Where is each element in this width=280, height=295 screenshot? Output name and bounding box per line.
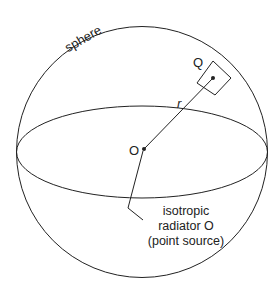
- radius-line: [144, 78, 213, 149]
- origin-dot: [142, 147, 146, 151]
- point-q-label: Q: [193, 55, 203, 70]
- point-q-dot: [211, 76, 215, 80]
- annotation-line-3: (point source): [126, 234, 246, 249]
- annotation-line-1: isotropic: [126, 204, 246, 219]
- annotation-line-2: radiator O: [126, 219, 246, 234]
- equator-ellipse: [17, 106, 268, 198]
- sphere-diagram: [0, 0, 280, 295]
- radius-label: r: [177, 96, 181, 111]
- origin-label: O: [129, 143, 139, 158]
- radiator-annotation: isotropic radiator O (point source): [126, 204, 246, 249]
